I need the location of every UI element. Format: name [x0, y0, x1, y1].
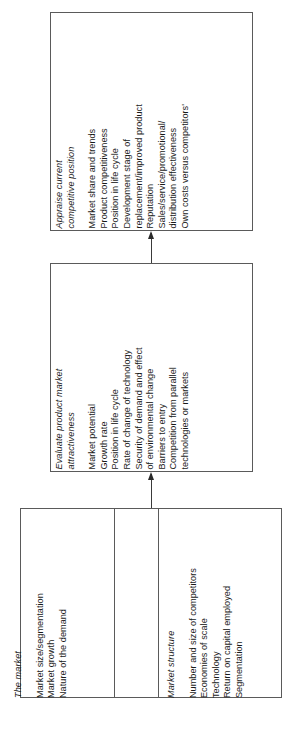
box-evaluate-item-list: Market potential Growth rate Position in… [86, 347, 190, 469]
list-item: Reputation [144, 104, 156, 228]
list-item: Economies of scale [199, 568, 211, 698]
list-item: Sales/service/promotional/ distribution … [156, 104, 179, 228]
box-evaluate-title: Evaluate product market attractiveness [53, 368, 76, 469]
arrowhead-icon [148, 472, 154, 480]
list-item: Product competitiveness [98, 104, 110, 228]
list-item: Position in life cycle [109, 104, 121, 228]
list-item: Development stage of replacement/improve… [121, 104, 144, 228]
list-item: Rate of change of technology [121, 347, 133, 469]
list-item: Competition from parallel technologies o… [167, 347, 190, 469]
list-item: Nature of the demand [57, 593, 69, 698]
list-item: Growth rate [98, 347, 110, 469]
market-structure-title: Market structure [166, 631, 178, 698]
list-item: Market size/segmentation [34, 593, 46, 698]
cell-market-structure-content: Market structure Number and size of comp… [166, 508, 276, 698]
market-structure-item-list: Number and size of competitors Economies… [187, 568, 245, 698]
box-appraise-title: Appraise current competitive position [53, 146, 76, 228]
the-market-item-list: Market size/segmentation Market growth N… [34, 593, 69, 698]
list-item: Market growth [46, 593, 58, 698]
list-item: Technology [210, 568, 222, 698]
cell-spacer [114, 509, 158, 697]
list-item: Market potential [86, 347, 98, 469]
box-the-market: The market Market size/segmentation Mark… [20, 508, 282, 698]
cell-the-market: The market Market size/segmentation Mark… [21, 509, 114, 697]
list-item: Own costs versus competitors' [179, 104, 191, 228]
box-appraise-item-list: Market share and trends Product competit… [86, 104, 190, 228]
arrowhead-icon [148, 231, 154, 239]
list-item: Position in life cycle [109, 347, 121, 469]
the-market-title: The market [13, 651, 25, 698]
cell-market-structure: Market structure Number and size of comp… [158, 509, 283, 697]
list-item: Barriers to entry [156, 347, 168, 469]
box-evaluate-content: Evaluate product market attractiveness M… [53, 266, 250, 469]
list-item: Segmentation [233, 568, 245, 698]
box-appraise-content: Appraise current competitive position Ma… [53, 15, 250, 228]
list-item: Market share and trends [86, 104, 98, 228]
flow-diagram: Appraise current competitive position Ma… [0, 0, 292, 732]
cell-the-market-content: The market Market size/segmentation Mark… [13, 508, 123, 698]
box-evaluate-product-market-attractiveness: Evaluate product market attractiveness M… [50, 263, 253, 472]
list-item: Number and size of competitors [187, 568, 199, 698]
box-appraise-current-competitive-position: Appraise current competitive position Ma… [50, 12, 253, 231]
list-item: Security of demand and effect of environ… [133, 347, 156, 469]
list-item: Return on capital employed [222, 568, 234, 698]
